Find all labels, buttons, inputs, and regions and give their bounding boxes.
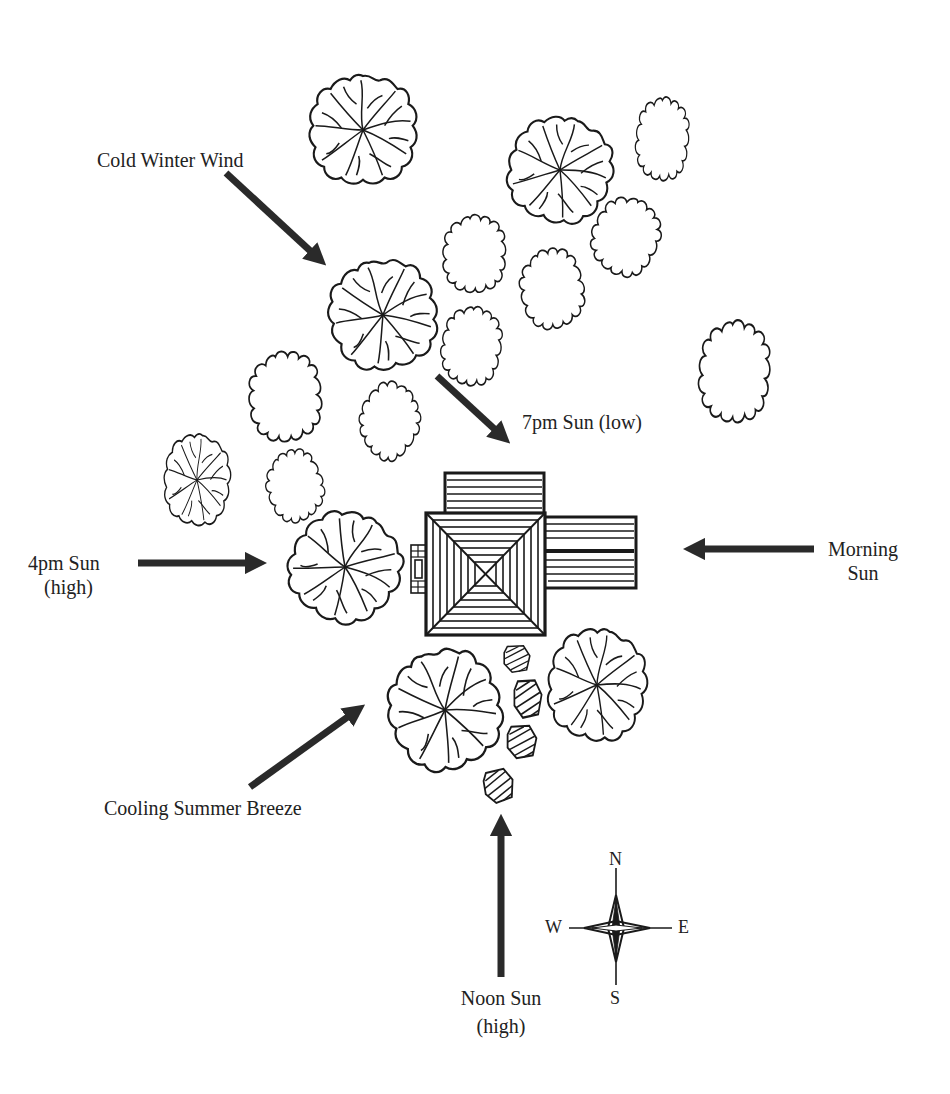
- label-morning-sun-line1: Morning: [815, 537, 911, 561]
- compass-east-label: E: [678, 917, 689, 938]
- tree-icon: [317, 248, 449, 381]
- compass-north-label: N: [609, 849, 622, 870]
- shrub-icon: [350, 366, 431, 475]
- label-morning-sun: Morning Sun: [815, 537, 911, 585]
- label-noon-sun-line1: Noon Sun: [441, 986, 561, 1010]
- shrub-icon: [436, 299, 507, 392]
- compass-west-label: W: [545, 917, 562, 938]
- compass-south-label: S: [610, 988, 620, 1009]
- tree-icon: [309, 75, 416, 184]
- stepping-stone: [514, 680, 541, 717]
- label-noon-sun-line2: (high): [441, 1014, 561, 1038]
- label-4pm-sun-line1: 4pm Sun: [28, 551, 148, 575]
- compass-rose-icon: [569, 868, 672, 985]
- tree-icon: [537, 616, 657, 751]
- label-7pm-sun: 7pm Sun (low): [522, 410, 642, 434]
- stepping-stone: [504, 646, 530, 673]
- stepping-stone: [482, 767, 516, 804]
- tree-icon: [159, 427, 235, 532]
- shrub-icon: [443, 215, 506, 293]
- shrub-icon: [696, 316, 773, 426]
- label-cooling-summer-breeze: Cooling Summer Breeze: [104, 796, 302, 820]
- cooling-breeze-arrow: [250, 711, 356, 787]
- label-noon-sun: Noon Sun (high): [441, 986, 561, 1038]
- shrub-icon: [511, 238, 593, 338]
- cold-winter-wind-arrow: [226, 173, 318, 258]
- label-4pm-sun-line2: (high): [28, 575, 148, 599]
- label-4pm-sun: 4pm Sun (high): [28, 551, 148, 599]
- shrub-icon: [244, 346, 326, 447]
- shrub-icon: [633, 92, 693, 186]
- house-roof-plan: [411, 473, 636, 635]
- label-morning-sun-line2: Sun: [815, 561, 911, 585]
- stepping-stone: [508, 726, 537, 758]
- label-cold-winter-wind: Cold Winter Wind: [97, 148, 244, 172]
- tree-icon: [370, 631, 518, 788]
